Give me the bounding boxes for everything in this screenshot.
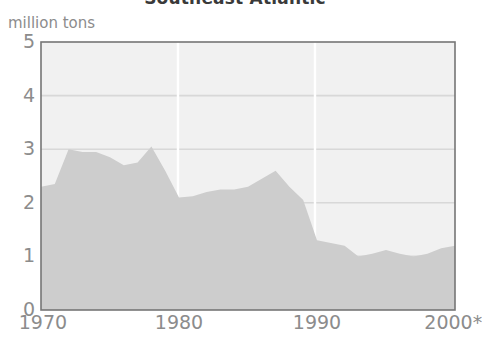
x-tick-label-1970: 1970 xyxy=(19,313,67,332)
x-tick-label-1990: 1990 xyxy=(293,313,341,332)
x-tick-label-1980: 1980 xyxy=(155,313,203,332)
x-tick-label-2000: 2000* xyxy=(424,313,482,332)
